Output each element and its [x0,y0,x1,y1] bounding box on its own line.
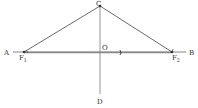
segment-c-f2 [100,6,172,52]
point-f1 [23,51,26,54]
label-f1: F1 [19,54,27,63]
segment-c-f1 [24,6,100,52]
ellipse-foci-diagram: A B C D O F1 F2 [0,0,198,108]
label-c: C [96,0,101,8]
label-d: D [97,98,103,106]
label-f2: F2 [172,54,180,63]
label-a: A [3,49,10,57]
label-o: O [102,44,108,52]
label-b: B [189,49,194,57]
